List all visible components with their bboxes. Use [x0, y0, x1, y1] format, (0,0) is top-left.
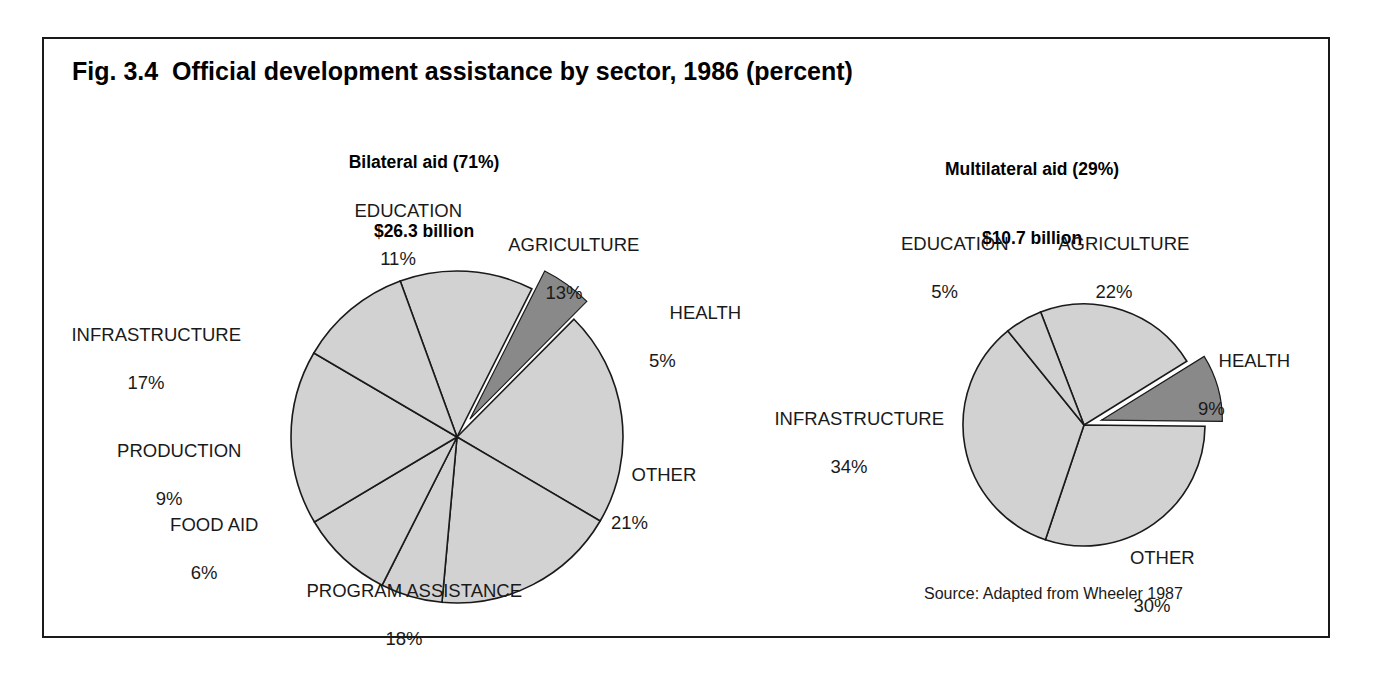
label-text: OTHER [632, 464, 697, 485]
label-pct: 18% [254, 627, 554, 651]
bilateral-title: Bilateral aid (71%) [254, 151, 594, 174]
label-multilateral-infrastructure: INFRASTRUCTURE 34% [736, 383, 962, 527]
label-text: AGRICULTURE [508, 234, 639, 255]
figure-frame: Fig. 3.4 Official development assistance… [42, 37, 1330, 638]
source-note: Source: Adapted from Wheeler 1987 [924, 585, 1183, 603]
label-multilateral-health: HEALTH 9% [1198, 325, 1338, 469]
label-multilateral-agriculture: AGRICULTURE 22% [1019, 208, 1209, 352]
label-bilateral-agriculture: AGRICULTURE 13% [464, 209, 664, 353]
label-text: INFRASTRUCTURE [774, 408, 944, 429]
label-pct: 9% [79, 487, 259, 511]
label-text: PROGRAM ASSISTANCE [307, 580, 523, 601]
multilateral-title: Multilateral aid (29%) [862, 158, 1202, 181]
label-bilateral-program-assistance: PROGRAM ASSISTANCE 18% [254, 555, 554, 685]
label-pct: 9% [1198, 397, 1338, 421]
label-text: EDUCATION [354, 200, 462, 221]
label-pct: 13% [464, 281, 664, 305]
label-pct: 34% [736, 455, 962, 479]
label-text: INFRASTRUCTURE [71, 324, 241, 345]
label-pct: 22% [1019, 280, 1209, 304]
label-pct: 6% [129, 561, 279, 585]
label-bilateral-infrastructure: INFRASTRUCTURE 17% [36, 299, 256, 443]
label-pct: 17% [36, 371, 256, 395]
label-text: HEALTH [1219, 350, 1291, 371]
label-text: EDUCATION [901, 233, 1009, 254]
label-text: AGRICULTURE [1058, 233, 1189, 254]
label-pct: 5% [649, 349, 809, 373]
figure-title: Fig. 3.4 Official development assistance… [72, 57, 853, 86]
label-multilateral-education: EDUCATION 5% [862, 208, 1027, 352]
label-pct: 5% [862, 280, 1027, 304]
label-text: HEALTH [670, 302, 742, 323]
label-text: OTHER [1130, 547, 1195, 568]
